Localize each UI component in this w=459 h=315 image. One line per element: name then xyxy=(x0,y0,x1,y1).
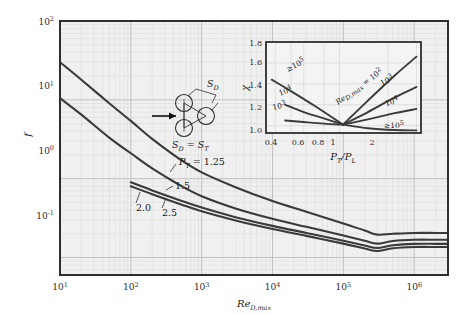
inset-y-tick-1: 1.2 xyxy=(249,103,262,112)
inset-y-tick-4: 1.8 xyxy=(249,39,262,48)
inset-x-tick-1: 0.6 xyxy=(292,138,305,147)
inset-y-tick-2: 1.4 xyxy=(249,81,262,90)
inset-y-axis-label: χ xyxy=(239,84,250,92)
figure-container: 102 101 100 10-1 f 101 102 103 104 105 1… xyxy=(0,0,459,315)
chart-svg: 102 101 100 10-1 f 101 102 103 104 105 1… xyxy=(0,0,459,315)
inset-y-tick-0: 1.0 xyxy=(249,126,262,135)
curve-label-1-5: 1.5 xyxy=(175,180,190,191)
curve-label-2-0: 2.0 xyxy=(136,202,151,213)
inset-x-tick-0: 0.4 xyxy=(265,138,278,147)
inset-x-tick-4: 2 xyxy=(369,138,374,147)
curve-label-2-5: 2.5 xyxy=(162,207,177,218)
inset-x-tick-2: 0.8 xyxy=(312,138,325,147)
inset-x-tick-3: 1 xyxy=(330,138,335,147)
inset-y-tick-3: 1.6 xyxy=(249,58,262,67)
